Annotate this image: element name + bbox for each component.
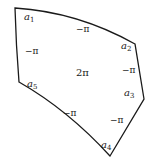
edge-label-a4-a5: −π [63,108,77,118]
edge-label-a2-a3: −π [122,65,136,75]
edge-label-a5-a1: −π [25,46,39,56]
edge-label-a1-a2: −π [76,24,90,34]
edge-label-a3-a4: −π [110,115,124,125]
vertex-label-a2: a2 [121,40,131,53]
center-label: 2π [76,67,89,78]
vertex-label-a5: a5 [27,78,37,91]
vertex-label-a4: a4 [101,139,112,152]
vertex-label-a3: a3 [124,87,134,100]
vertex-label-a1: a1 [24,11,34,24]
pentagon-diagram: a1 a2 a3 a4 a5 −π −π −π −π −π 2π [0,0,154,163]
